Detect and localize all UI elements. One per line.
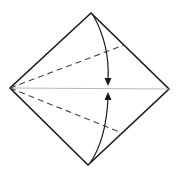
fold-up-arrowhead: [105, 92, 112, 100]
center-crease: [10, 88, 169, 89]
origami-diagram: [0, 0, 181, 174]
fold-up-arrow: [90, 98, 108, 163]
fold-down-arrow: [93, 15, 108, 80]
fold-down-arrowhead: [105, 78, 112, 86]
